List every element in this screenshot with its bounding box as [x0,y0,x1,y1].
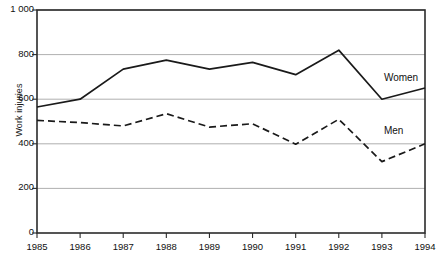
series-line-women [37,50,425,107]
series-label-women: Women [384,72,418,83]
work-injuries-line-chart: Work injuries 1 0008006004002000 1985198… [0,0,436,257]
plot-frame [37,10,425,233]
series-label-men: Men [384,125,403,136]
plot-area [0,0,436,257]
series-line-men [37,114,425,162]
